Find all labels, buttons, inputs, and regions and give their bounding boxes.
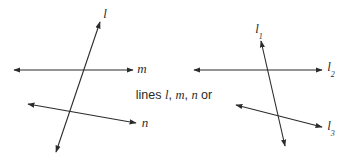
caption-sep-1: , [168,88,175,102]
label-subscript: 1 [259,31,263,40]
caption-trail: or [198,88,213,102]
caption-lines-or: lines l, m, n or [136,88,212,103]
line-label-l: l [103,7,107,20]
caption-var-m: m [175,88,184,102]
line-label-n: n [142,116,149,129]
line-label-l1: l1 [255,22,263,39]
line-l1 [261,41,285,146]
right-diagram-group [194,41,322,146]
left-diagram-group [14,22,136,152]
label-subscript: 2 [331,69,335,78]
caption-sep-2: , [184,88,191,102]
line-label-l3: l3 [327,119,335,136]
line-label-l2: l2 [327,60,335,77]
line-label-m: m [137,62,146,75]
label-subscript: 3 [331,128,335,137]
line-l [56,22,100,152]
lines-canvas [0,0,348,163]
caption-lead: lines [136,88,165,102]
line-l3 [236,105,322,127]
lines-figure: l m n l1 l2 l3 lines l, m, n or [0,0,348,163]
line-n [28,104,136,123]
